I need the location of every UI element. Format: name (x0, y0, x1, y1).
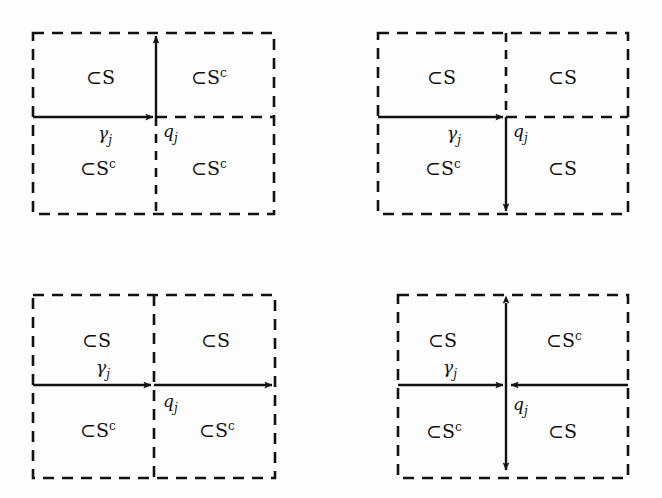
panel-3-label-top-left: ⊂S (82, 329, 111, 351)
figure-container: ⊂S ⊂Sc ⊂Sc ⊂Sc γj qj ⊂S ⊂S ⊂Sc ⊂S γj qj … (0, 0, 662, 498)
panel-3-label-top-right: ⊂S (201, 329, 230, 351)
panel-4-label-top-left: ⊂S (428, 329, 457, 351)
panel-2-label-top-right: ⊂S (548, 66, 577, 88)
panel-2-label-bottom-right: ⊂S (548, 157, 577, 179)
four-panel-subset-diagram: ⊂S ⊂Sc ⊂Sc ⊂Sc γj qj ⊂S ⊂S ⊂Sc ⊂S γj qj … (0, 0, 662, 498)
panel-2-label-top-left: ⊂S (427, 66, 456, 88)
panel-1-label-top-left: ⊂S (86, 66, 115, 88)
panel-4-label-bottom-right: ⊂S (548, 420, 577, 442)
